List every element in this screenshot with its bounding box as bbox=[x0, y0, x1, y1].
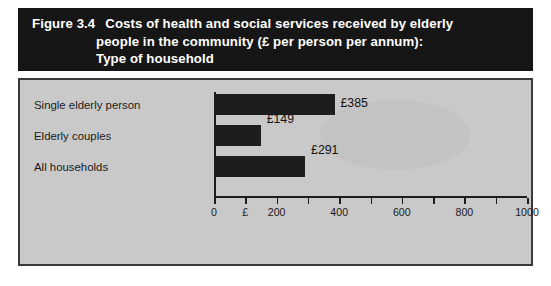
bar-value-label-1: £149 bbox=[267, 113, 294, 126]
x-axis-tick-label-200: 200 bbox=[268, 206, 286, 218]
x-axis-tick-0 bbox=[214, 198, 216, 204]
bar-elderly-couples bbox=[214, 125, 261, 146]
x-axis-tick-1000 bbox=[527, 198, 529, 204]
category-label-2: All households bbox=[34, 161, 108, 174]
x-axis-tick-500 bbox=[371, 198, 373, 204]
category-label-0: Single elderly person bbox=[34, 99, 140, 112]
x-axis-tick-900 bbox=[496, 198, 498, 204]
x-axis-tick-label-1000: 1000 bbox=[515, 206, 539, 218]
x-axis-tick-300 bbox=[308, 198, 310, 204]
x-axis-tick-label-600: 600 bbox=[393, 206, 411, 218]
x-axis-tick-200 bbox=[277, 198, 279, 204]
figure-title-banner: Figure 3.4Costs of health and social ser… bbox=[18, 8, 533, 71]
figure-container: Figure 3.4Costs of health and social ser… bbox=[0, 0, 551, 286]
x-axis-tick-400 bbox=[339, 198, 341, 204]
chart-panel: Single elderly person Elderly couples Al… bbox=[18, 78, 533, 266]
figure-title-line-2: people in the community (£ per person pe… bbox=[32, 33, 525, 51]
bar-value-label-2: £291 bbox=[311, 144, 338, 157]
bar-value-label-0: £385 bbox=[341, 97, 368, 110]
x-axis-tick-800 bbox=[464, 198, 466, 204]
x-axis-tick-700 bbox=[433, 198, 435, 204]
figure-title-line-3: Type of household bbox=[32, 50, 525, 68]
figure-title-line-1: Figure 3.4Costs of health and social ser… bbox=[32, 15, 525, 33]
scan-smudge bbox=[320, 100, 470, 170]
figure-title-text-1: Costs of health and social services rece… bbox=[95, 16, 453, 31]
x-axis-tick-label-800: 800 bbox=[456, 206, 474, 218]
x-axis-tick-600 bbox=[402, 198, 404, 204]
y-axis-line bbox=[214, 92, 216, 198]
category-label-1: Elderly couples bbox=[34, 130, 111, 143]
x-axis-tick-label-100: £ bbox=[242, 206, 248, 218]
bar-all-households bbox=[214, 156, 305, 177]
figure-number: Figure 3.4 bbox=[32, 16, 95, 31]
plot-area: Single elderly person Elderly couples Al… bbox=[20, 80, 531, 264]
x-axis-tick-100 bbox=[245, 198, 247, 204]
x-axis-tick-label-400: 400 bbox=[330, 206, 348, 218]
x-axis-tick-label-0: 0 bbox=[211, 206, 217, 218]
